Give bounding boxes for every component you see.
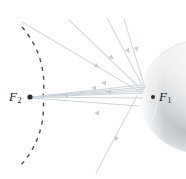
incoming-ray-5 bbox=[96, 96, 137, 173]
reflected-rays bbox=[31, 85, 145, 106]
arrowhead-reflected-4 bbox=[94, 111, 99, 116]
ray-diagram-figure: F2 F1 bbox=[0, 0, 186, 179]
ellipsoid-mirror bbox=[138, 38, 186, 179]
label-f1-letter: F bbox=[159, 89, 167, 104]
mirror-bottom-fade bbox=[138, 138, 186, 179]
label-f2-subscript: 2 bbox=[17, 96, 21, 105]
arrowhead-reflected-1 bbox=[101, 80, 106, 85]
reflected-ray-6 bbox=[31, 98, 139, 106]
label-f1-subscript: 1 bbox=[167, 96, 171, 105]
label-focus-f2: F2 bbox=[9, 90, 21, 103]
arrowhead-incoming-2 bbox=[108, 54, 115, 61]
focus-point-f1 bbox=[151, 95, 155, 99]
label-f2-letter: F bbox=[9, 89, 17, 104]
label-focus-f1: F1 bbox=[159, 90, 171, 103]
arrowhead-incoming-1 bbox=[94, 63, 101, 70]
reflected-ray-7 bbox=[31, 97, 142, 98]
incoming-ray-2 bbox=[69, 20, 143, 91]
focus-point-f2 bbox=[27, 94, 32, 99]
